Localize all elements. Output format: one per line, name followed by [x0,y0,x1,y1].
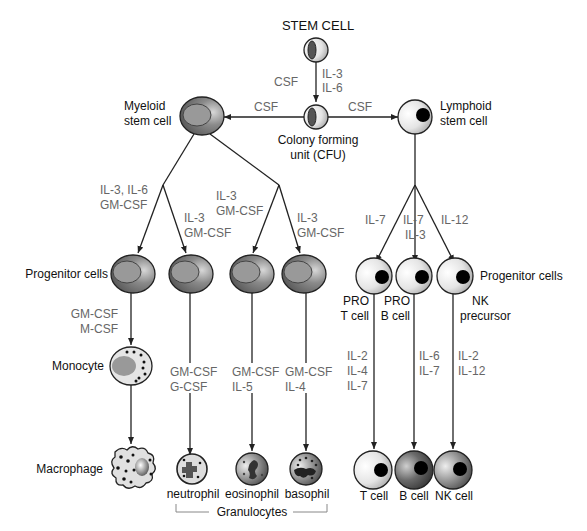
cfu-cell-icon [304,105,328,129]
factor-label: IL-2 [458,349,479,363]
factor-label: GM-CSF [71,307,118,321]
macrophage-icon [112,447,156,489]
factor-label: IL-3 [184,211,205,225]
granulocyte-label: basophil [285,487,330,501]
granulocyte-label: eosinophil [225,487,279,501]
pro-b-cell-icon [396,258,432,294]
b-cell-icon [395,451,433,489]
factor-label: CSF [348,100,372,114]
factor-label: IL-3 [405,228,426,242]
factor-label: G-CSF [170,380,207,394]
nk-precursor-icon [437,258,473,294]
cfu-label: unit (CFU) [290,148,345,162]
neutrophil-icon [177,454,207,484]
factor-label: IL-3 [322,67,343,81]
factor-label: IL-5 [232,380,253,394]
progenitor-label: Progenitor cells [480,269,563,283]
factor-label: IL-12 [458,364,486,378]
macrophage-label: Macrophage [36,462,103,476]
factor-label: IL-7 [403,213,424,227]
granulocyte-label: neutrophil [167,487,220,501]
basophil-icon [290,453,322,485]
factor-label: IL-7 [347,379,368,393]
factor-label: IL-2 [347,349,368,363]
myeloid-label: stem cell [124,114,171,128]
stem-cell-icon [304,38,328,62]
lymphoid-progenitor-label: NK [472,294,489,308]
myeloid-progenitor-cell-icon [111,255,155,293]
factor-label: GM-CSF [232,365,279,379]
factor-label: IL-12 [441,213,469,227]
factor-label: GM-CSF [297,226,344,240]
monocyte-label: Monocyte [52,359,104,373]
progenitor-label: Progenitor cells [25,267,108,281]
factor-label: IL-3 [297,211,318,225]
factor-label: CSF [274,75,298,89]
factor-label: IL-4 [347,364,368,378]
neutrophil-progenitor-cell-icon [169,255,213,293]
lymphoid-progenitor-label: PRO [384,294,410,308]
myeloid-stem-cell-icon [180,97,224,135]
basophil-progenitor-cell-icon [282,255,326,293]
lymphocyte-label: T cell [360,489,388,503]
monocyte-icon [110,347,152,385]
factor-label: GM-CSF [285,365,332,379]
nk-cell-icon [434,451,472,489]
factor-label: IL-7 [419,364,440,378]
eosinophil-icon [236,453,268,485]
factor-label: IL-3, IL-6 [100,183,148,197]
hematopoiesis-diagram: STEM CELL CSF IL-3 IL-6 Colony forming u… [0,0,587,531]
lymphoid-progenitor-label: PRO [343,294,369,308]
t-cell-icon [354,451,392,489]
factor-label: CSF [254,100,278,114]
lymphoid-progenitor-label: T cell [341,309,369,323]
lymphoid-stem-cell-icon [398,100,432,134]
factor-label: M-CSF [80,322,118,336]
lymphocyte-label: B cell [399,489,428,503]
lymphoid-label: Lymphoid [440,99,492,113]
factor-label: GM-CSF [216,204,263,218]
eosinophil-progenitor-cell-icon [230,255,274,293]
factor-label: GM-CSF [100,198,147,212]
pro-t-cell-icon [356,258,392,294]
granulocytes-group-label: Granulocytes [217,505,288,519]
lymphoid-progenitor-label: B cell [381,309,410,323]
myeloid-label: Myeloid [124,99,165,113]
factor-label: GM-CSF [184,226,231,240]
factor-label: IL-6 [322,81,343,95]
factor-label: GM-CSF [170,365,217,379]
stem-cell-title: STEM CELL [282,18,354,33]
lymphocyte-label: NK cell [435,489,473,503]
factor-label: IL-6 [419,349,440,363]
factor-label: IL-4 [285,380,306,394]
cfu-label: Colony forming [278,133,359,147]
lymphoid-progenitor-label: precursor [460,309,511,323]
factor-label: IL-3 [216,189,237,203]
lymphoid-label: stem cell [440,114,487,128]
factor-label: IL-7 [365,213,386,227]
